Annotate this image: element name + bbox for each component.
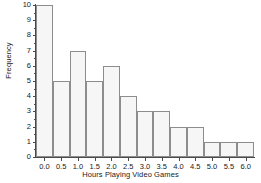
y-axis-minor-tick xyxy=(34,58,36,59)
x-axis-title: Hours Playing Video Games xyxy=(0,170,261,179)
y-axis-tick-label: 6 xyxy=(27,62,31,70)
histogram-bar xyxy=(86,81,103,157)
x-axis-tick xyxy=(162,157,163,161)
y-axis-tick xyxy=(33,111,36,112)
y-axis-minor-tick xyxy=(34,73,36,74)
histogram-chart: Frequency 012345678910 0.00.51.01.52.02.… xyxy=(0,0,261,183)
y-axis-tick xyxy=(33,96,36,97)
y-axis-minor-tick xyxy=(34,89,36,90)
histogram-bar xyxy=(237,142,254,157)
x-axis-tick xyxy=(229,157,230,161)
x-axis-tick xyxy=(179,157,180,161)
histogram-bar xyxy=(170,127,187,157)
y-axis-tick-label: 7 xyxy=(27,47,31,55)
y-axis-minor-tick xyxy=(34,119,36,120)
y-axis-tick-label: 9 xyxy=(27,16,31,24)
y-axis-minor-tick xyxy=(34,149,36,150)
histogram-bar xyxy=(70,51,87,157)
y-axis-minor-tick xyxy=(34,104,36,105)
y-axis-tick-label: 0 xyxy=(27,153,31,161)
histogram-bar xyxy=(137,111,154,157)
y-axis-tick-label: 1 xyxy=(27,138,31,146)
y-axis-tick xyxy=(33,127,36,128)
y-axis-tick-label: 2 xyxy=(27,123,31,131)
y-axis-tick-label: 4 xyxy=(27,92,31,100)
histogram-bar xyxy=(36,5,53,157)
x-axis-tick xyxy=(212,157,213,161)
plot-area: 012345678910 0.00.51.01.52.02.53.03.54.0… xyxy=(36,5,254,157)
histogram-bar xyxy=(103,66,120,157)
y-axis-tick-label: 3 xyxy=(27,108,31,116)
x-axis-tick xyxy=(111,157,112,161)
y-axis-minor-tick xyxy=(34,43,36,44)
x-axis-tick xyxy=(95,157,96,161)
histogram-bar xyxy=(153,111,170,157)
y-axis-minor-tick xyxy=(34,13,36,14)
x-axis-tick xyxy=(195,157,196,161)
y-axis-tick xyxy=(33,142,36,143)
y-axis-tick-label: 8 xyxy=(27,32,31,40)
x-axis-tick xyxy=(128,157,129,161)
x-axis-tick xyxy=(246,157,247,161)
y-axis-minor-tick xyxy=(34,134,36,135)
y-axis-tick xyxy=(33,51,36,52)
y-axis-title: Frequency xyxy=(4,25,13,97)
y-axis-tick xyxy=(33,5,36,6)
x-axis-tick xyxy=(61,157,62,161)
histogram-bar xyxy=(187,127,204,157)
histogram-bar xyxy=(53,81,70,157)
x-axis-tick xyxy=(145,157,146,161)
y-axis-tick xyxy=(33,66,36,67)
histogram-bar xyxy=(120,96,137,157)
y-axis-tick xyxy=(33,35,36,36)
y-axis-minor-tick xyxy=(34,28,36,29)
histogram-bar xyxy=(220,142,237,157)
y-axis-tick xyxy=(33,81,36,82)
y-axis-tick xyxy=(33,20,36,21)
histogram-bar xyxy=(204,142,221,157)
y-axis-tick-label: 5 xyxy=(27,77,31,85)
x-axis-tick xyxy=(78,157,79,161)
y-axis-tick-label: 10 xyxy=(23,1,31,9)
y-axis-tick xyxy=(33,157,36,158)
x-axis-tick xyxy=(44,157,45,161)
